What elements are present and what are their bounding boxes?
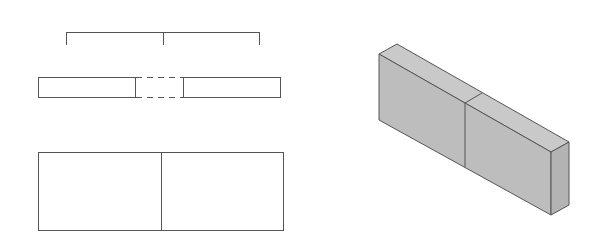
front-elevation: [39, 153, 284, 231]
diagram-canvas: [0, 0, 610, 240]
dimension-bracket: [66, 32, 260, 45]
plan-view: [39, 78, 281, 98]
isometric-view: [379, 44, 569, 215]
iso-side-face: [551, 142, 569, 215]
